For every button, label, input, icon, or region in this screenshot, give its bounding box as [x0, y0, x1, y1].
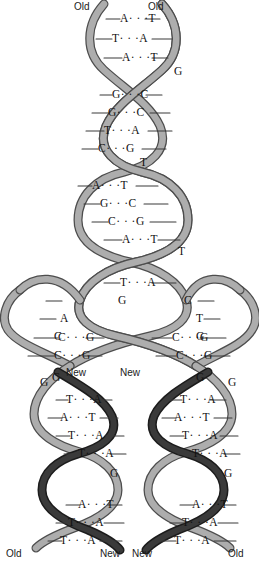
fork-base-left: G [52, 372, 60, 384]
base-pair: A· · ·T [122, 52, 158, 64]
fork-loop-right [186, 279, 240, 300]
base-pair: A· · ·T [78, 499, 114, 511]
base-pair: C· · ·G [108, 216, 145, 228]
base-pair: A· · ·T [92, 180, 128, 192]
base-pair: T· · ·A [68, 517, 104, 529]
base-pair: T· · ·A [60, 535, 96, 547]
base-pair-fork: C· · ·G [172, 332, 209, 344]
label-new-fork-right: New [120, 368, 140, 378]
base-pair: T· · ·A [120, 277, 156, 289]
label-old-bottom-left: Old [6, 549, 22, 559]
base-pair: T· · ·A [180, 394, 216, 406]
base-pair: T· · ·A [78, 448, 114, 460]
base-pair: G· · ·C [112, 89, 149, 101]
label-old-top-right: Old [148, 2, 164, 12]
base-pair: A· · ·T [192, 499, 228, 511]
label-old-top-left: Old [74, 2, 90, 12]
base-pair: T· · ·A [174, 535, 210, 547]
unpaired-base-right: T [196, 313, 203, 325]
crossover-base: G [228, 377, 236, 389]
base-pair: T· · ·A [112, 33, 148, 45]
crossover-base: T [178, 246, 185, 258]
base-pair: A· · ·T [122, 234, 158, 246]
fork-loop-left [20, 279, 80, 300]
base-pair: A· · ·T [60, 412, 96, 424]
base-pair: T· · ·A [182, 430, 218, 442]
base-pair-fork: C· · ·G [176, 350, 213, 362]
crossover-base: G [174, 66, 182, 78]
base-pair: T· · ·A [182, 517, 218, 529]
base-pair: T· · ·A [68, 430, 104, 442]
base-pair: G· · ·C [100, 198, 137, 210]
base-pair-fork: C· · ·G [58, 332, 95, 344]
crossover-base: G [40, 377, 48, 389]
crossover-base: G [224, 468, 232, 480]
base-pair: T· · ·A [192, 448, 228, 460]
label-new-bottom-left: New [100, 549, 120, 559]
base-pair: A· · ·T [174, 412, 210, 424]
crossover-base: G [110, 468, 118, 480]
label-new-fork-left: New [66, 368, 86, 378]
base-pair: T· · ·A [66, 394, 102, 406]
base-pair: G· · ·C [108, 107, 145, 119]
crossover-base: T [140, 157, 147, 169]
unpaired-base-right: C [184, 295, 192, 307]
base-pair: T· · ·A [104, 125, 140, 137]
label-old-bottom-right: Old [228, 549, 244, 559]
label-new-bottom-right: New [132, 549, 152, 559]
dna-replication-figure: Old Old A· · ·T T· · ·A A· · ·T G· · ·C … [0, 0, 259, 565]
unpaired-base-left: G [118, 295, 126, 307]
unpaired-base-left: A [60, 313, 68, 325]
base-pair: C· · ·G [98, 143, 135, 155]
base-pair: A· · ·T [120, 13, 156, 25]
fork-base-right: G [196, 372, 204, 384]
base-pair-fork: C· · ·G [54, 350, 91, 362]
